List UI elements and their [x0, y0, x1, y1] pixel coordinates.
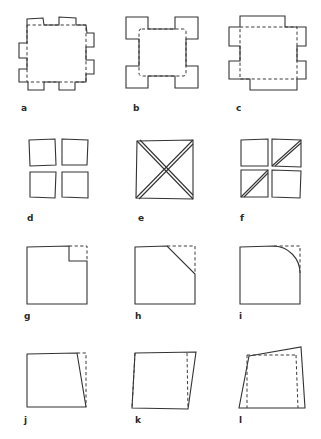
- figure-label-k: k: [135, 416, 141, 425]
- figure-k-drawing: [130, 350, 202, 414]
- figure-j-drawing: [25, 350, 91, 412]
- figure-panel-i: [238, 243, 304, 307]
- figure-e-diagonal-1a: [137, 141, 193, 199]
- figure-l-drawing: [235, 346, 309, 414]
- figure-f-diagonal-tr-a: [272, 140, 301, 166]
- figure-d-square-top-left: [29, 139, 56, 166]
- figure-h-outline: [135, 246, 195, 304]
- figure-a-drawing: [14, 12, 100, 96]
- figure-c-drawing: [222, 12, 312, 96]
- figure-panel-b: [122, 12, 206, 96]
- figure-f-diagonal-bl-a: [241, 170, 268, 197]
- figure-d-square-top-right: [62, 139, 88, 165]
- figure-f-drawing: [240, 138, 304, 200]
- figure-panel-k: [130, 350, 202, 414]
- figure-label-f: f: [240, 214, 244, 223]
- figure-l-dashed-right-edge: [296, 355, 298, 408]
- figure-panel-d: [28, 138, 90, 200]
- figure-d-square-bottom-right: [62, 172, 88, 198]
- figure-l-outline: [239, 347, 305, 408]
- figure-label-g: g: [24, 312, 30, 321]
- figure-panel-j: [25, 350, 91, 412]
- figure-i-outline: [240, 246, 300, 304]
- figure-panel-e: [134, 138, 196, 202]
- figure-g-drawing: [25, 243, 91, 307]
- figure-g-dashed-corner: [69, 246, 87, 261]
- figure-panel-h: [133, 243, 199, 307]
- figure-label-j: j: [24, 416, 27, 425]
- figure-e-drawing: [134, 138, 196, 202]
- figure-label-a: a: [21, 104, 27, 113]
- figure-label-c: c: [236, 104, 241, 113]
- figure-k-dashed-right-edge: [187, 353, 188, 409]
- figure-label-l: l: [239, 416, 242, 425]
- figure-panel-l: [235, 346, 309, 414]
- figure-b-drawing: [122, 12, 206, 96]
- figure-f-diagonal-tr-b: [275, 143, 301, 166]
- figure-j-outline: [27, 353, 86, 407]
- figure-d-square-bottom-left: [30, 172, 56, 198]
- figure-label-b: b: [133, 104, 139, 113]
- figure-b-outline: [126, 17, 198, 88]
- figure-label-e: e: [138, 214, 144, 223]
- figure-panel-f: [240, 138, 304, 200]
- figure-panel-c: [222, 12, 312, 96]
- figure-g-outline: [27, 246, 87, 304]
- figure-f-square-top-left: [241, 139, 268, 166]
- figure-i-drawing: [238, 243, 304, 307]
- figure-f-square-bottom-right: [272, 170, 301, 198]
- figure-panel-a: [14, 12, 100, 96]
- figure-k-outline: [132, 352, 196, 409]
- figure-label-h: h: [135, 312, 141, 321]
- figure-panel-g: [25, 243, 91, 307]
- figure-d-drawing: [28, 138, 90, 200]
- figure-f-diagonal-bl-b: [244, 173, 268, 197]
- figure-a-outline: [19, 17, 94, 90]
- figure-label-d: d: [27, 214, 33, 223]
- figure-label-i: i: [239, 312, 242, 321]
- figure-h-drawing: [133, 243, 199, 307]
- figure-plate: a b c d: [0, 0, 321, 439]
